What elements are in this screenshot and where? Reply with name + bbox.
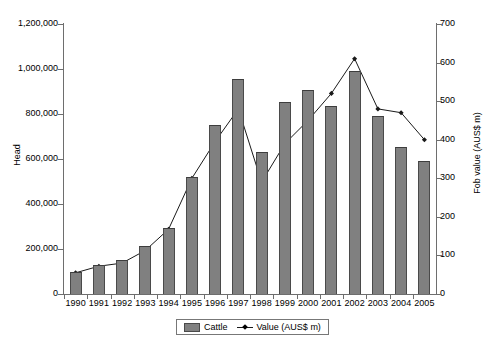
plot-area <box>64 24 436 294</box>
y-axis-right-tick-mark <box>436 294 442 295</box>
legend-entry-cattle: Cattle <box>184 322 228 332</box>
y-axis-right-tick-mark <box>436 63 442 64</box>
y-axis-left-tick-label: 800,000 <box>0 109 58 118</box>
y-axis-right-title: Fob value (AUS$ m) <box>472 93 482 213</box>
y-axis-right-line <box>436 23 437 295</box>
bar <box>256 152 268 294</box>
y-axis-left-tick-label: 600,000 <box>0 154 58 163</box>
y-axis-right-tick-label: 500 <box>440 96 455 105</box>
bar-swatch-icon <box>184 323 200 332</box>
y-axis-left-tick-label: 200,000 <box>0 244 58 253</box>
bar <box>186 177 198 294</box>
bar <box>93 265 105 294</box>
y-axis-right-tick-label: 100 <box>440 250 455 259</box>
bar <box>116 260 128 294</box>
bar <box>372 116 384 294</box>
bar <box>232 79 244 294</box>
y-axis-right-tick-mark <box>436 24 442 25</box>
y-axis-right-tick-label: 700 <box>440 19 455 28</box>
chart-legend: Cattle Value (AUS$ m) <box>176 319 329 335</box>
bar <box>395 147 407 294</box>
bar <box>163 228 175 294</box>
x-axis-tick-label: 2005 <box>407 299 441 308</box>
legend-label-cattle: Cattle <box>204 322 228 332</box>
bar <box>302 90 314 294</box>
line-marker <box>375 106 380 111</box>
y-axis-right-tick-label: 200 <box>440 212 455 221</box>
bar <box>418 161 430 294</box>
y-axis-left-tick-label: 0 <box>0 289 58 298</box>
y-axis-right-tick-mark <box>436 255 442 256</box>
line-marker-icon <box>237 324 253 331</box>
bar <box>139 246 151 294</box>
y-axis-right-tick-mark <box>436 140 442 141</box>
y-axis-right-tick-mark <box>436 178 442 179</box>
y-axis-right-tick-label: 600 <box>440 58 455 67</box>
bar <box>279 102 291 294</box>
legend-label-value: Value (AUS$ m) <box>257 322 321 332</box>
bar <box>70 272 82 295</box>
y-axis-right-tick-mark <box>436 217 442 218</box>
y-axis-right-tick-label: 300 <box>440 173 455 182</box>
y-axis-right-tick-mark <box>436 101 442 102</box>
bar <box>325 106 337 294</box>
y-axis-left-tick-label: 1,000,000 <box>0 64 58 73</box>
chart-container: Head Fob value (AUS$ m) 0200,000400,0006… <box>0 0 499 344</box>
bar <box>349 71 361 294</box>
bar <box>209 125 221 294</box>
y-axis-right-tick-label: 400 <box>440 135 455 144</box>
y-axis-left-tick-label: 1,200,000 <box>0 19 58 28</box>
y-axis-left-tick-label: 400,000 <box>0 199 58 208</box>
legend-entry-value: Value (AUS$ m) <box>237 322 321 332</box>
